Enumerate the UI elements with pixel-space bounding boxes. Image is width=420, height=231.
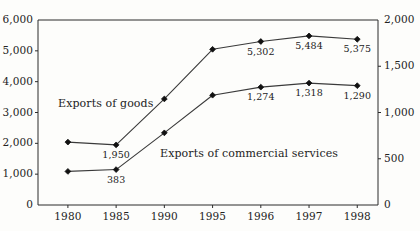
exports-line-chart: 01,0002,0003,0004,0005,0006,00005001,000…	[0, 0, 420, 231]
left-axis-tick-label: 0	[26, 199, 33, 210]
data-point-label: 383	[91, 175, 141, 185]
data-point-label: 5,484	[284, 41, 334, 51]
series-annotation: Exports of commercial services	[160, 148, 338, 160]
left-axis-tick-label: 6,000	[2, 14, 33, 25]
series-annotation: Exports of goods	[58, 98, 153, 110]
x-axis-tick-label: 1998	[327, 211, 387, 222]
right-axis-tick-label: 1,500	[384, 60, 415, 71]
left-axis-tick-label: 4,000	[2, 76, 33, 87]
data-point-label: 1,290	[332, 91, 382, 101]
data-point-label: 5,375	[332, 44, 382, 54]
left-axis-tick-label: 5,000	[2, 45, 33, 56]
right-axis-tick-label: 1,000	[384, 107, 415, 118]
data-point-label: 1,318	[284, 88, 334, 98]
right-axis-tick-label: 500	[384, 153, 404, 164]
data-point-label: 1,274	[236, 92, 286, 102]
left-axis-tick-label: 3,000	[2, 107, 33, 118]
chart-plot-area	[0, 0, 420, 231]
chart-screenshot: 01,0002,0003,0004,0005,0006,00005001,000…	[0, 0, 420, 231]
left-axis-tick-label: 1,000	[2, 168, 33, 179]
right-axis-tick-label: 0	[384, 199, 391, 210]
data-point-label: 1,950	[91, 150, 141, 160]
data-point-label: 5,302	[236, 47, 286, 57]
left-axis-tick-label: 2,000	[2, 137, 33, 148]
right-axis-tick-label: 2,000	[384, 14, 415, 25]
